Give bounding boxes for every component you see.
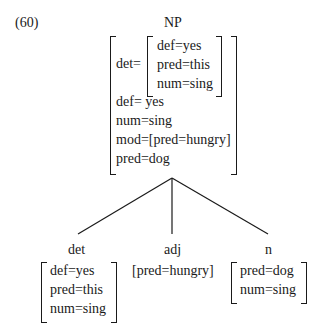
- child-adj-label: adj: [164, 240, 181, 259]
- child-det-bracket-right: [111, 262, 117, 323]
- child-det-label: det: [68, 240, 85, 259]
- branch-det: [78, 178, 172, 234]
- child-n-bracket-right: [301, 262, 307, 304]
- branch-n: [172, 178, 268, 234]
- child-n-feature: pred=dog: [240, 261, 294, 280]
- child-n-bracket-left: [231, 262, 237, 304]
- child-det-feature: def=yes: [50, 261, 94, 280]
- child-n-feature: num=sing: [240, 280, 296, 299]
- child-adj-feature: [pred=hungry]: [132, 261, 214, 280]
- child-det-bracket-left: [41, 262, 47, 323]
- child-n-label: n: [265, 240, 272, 259]
- child-det-feature: num=sing: [50, 299, 106, 318]
- child-det-feature: pred=this: [50, 280, 103, 299]
